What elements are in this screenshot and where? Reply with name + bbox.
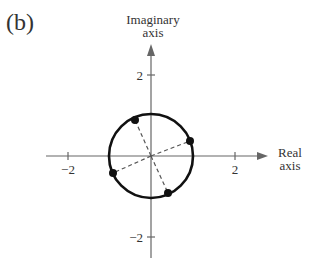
point-2 (186, 137, 194, 145)
point-4 (164, 189, 172, 197)
real-axis-arrow-icon (257, 152, 268, 160)
axes (46, 50, 262, 258)
y-axis-label-line2: axis (143, 25, 164, 40)
point-3 (109, 169, 117, 177)
imaginary-axis-arrow-icon (147, 44, 155, 56)
radius-1 (135, 120, 151, 156)
panel-label: (b) (6, 9, 34, 35)
radius-3 (113, 156, 151, 173)
radius-2 (151, 141, 190, 156)
point-1 (131, 116, 139, 124)
complex-plane-diagram: (b) Imaginary axis Real axis −2 2 2 −2 (0, 0, 310, 272)
x-tick-label-2: 2 (232, 162, 239, 177)
radius-4 (151, 156, 168, 193)
x-axis-label-line2: axis (280, 158, 301, 173)
x-tick-label-neg2: −2 (61, 162, 75, 177)
y-tick-label-neg2: −2 (129, 230, 143, 245)
y-tick-label-2: 2 (137, 68, 144, 83)
